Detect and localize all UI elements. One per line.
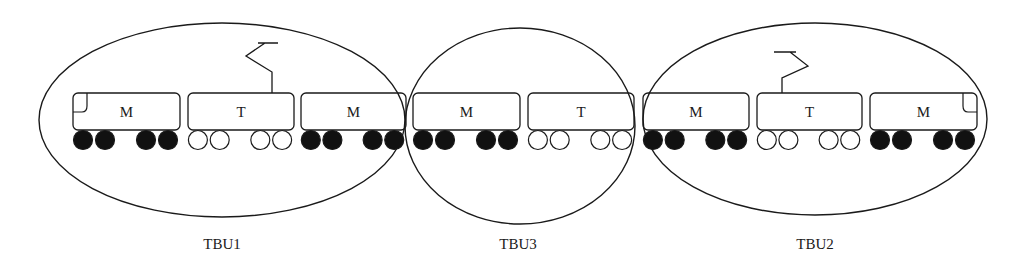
- powered-wheel-icon: [477, 131, 496, 150]
- powered-wheel-icon: [436, 131, 455, 150]
- powered-wheel-icon: [956, 131, 975, 150]
- powered-wheel-icon: [159, 131, 178, 150]
- car-motor: M: [301, 93, 406, 150]
- powered-wheel-icon: [871, 131, 890, 150]
- powered-wheel-icon: [934, 131, 953, 150]
- trailer-wheel-icon: [779, 131, 798, 150]
- traction-unit-groups: [39, 23, 987, 224]
- powered-wheel-icon: [414, 131, 433, 150]
- cab-icon: [73, 93, 87, 112]
- car-motor: M: [870, 93, 977, 150]
- trailer-wheel-icon: [819, 131, 838, 150]
- car-label: M: [917, 104, 930, 120]
- trailer-wheel-icon: [188, 131, 207, 150]
- powered-wheel-icon: [74, 131, 93, 150]
- powered-wheel-icon: [706, 131, 725, 150]
- powered-wheel-icon: [728, 131, 747, 150]
- trailer-wheel-icon: [591, 131, 610, 150]
- trailer-wheel-icon: [528, 131, 547, 150]
- powered-wheel-icon: [96, 131, 115, 150]
- pantograph-icon: [774, 52, 808, 93]
- car-label: M: [120, 104, 133, 120]
- car-label: T: [576, 104, 585, 120]
- car-label: M: [347, 104, 360, 120]
- powered-wheel-icon: [385, 131, 404, 150]
- group-label: TBU1: [203, 236, 241, 252]
- car-label: M: [689, 104, 702, 120]
- car-label: M: [460, 104, 473, 120]
- group-boundary-tbu1: [39, 23, 405, 217]
- car-trailer: T: [757, 52, 862, 150]
- powered-wheel-icon: [363, 131, 382, 150]
- trailer-wheel-icon: [210, 131, 229, 150]
- car-trailer: T: [528, 93, 634, 150]
- powered-wheel-icon: [665, 131, 684, 150]
- car-label: T: [236, 104, 245, 120]
- car-trailer: T: [188, 43, 294, 150]
- powered-wheel-icon: [893, 131, 912, 150]
- trailer-wheel-icon: [273, 131, 292, 150]
- trailer-wheel-icon: [251, 131, 270, 150]
- trailer-wheel-icon: [757, 131, 776, 150]
- group-label: TBU3: [499, 236, 537, 252]
- trailer-wheel-icon: [550, 131, 569, 150]
- car-motor: M: [643, 93, 749, 150]
- group-labels: TBU1TBU3TBU2: [203, 236, 834, 252]
- group-label: TBU2: [796, 236, 834, 252]
- powered-wheel-icon: [137, 131, 156, 150]
- train-cars: MTMMTMTM: [73, 43, 977, 150]
- powered-wheel-icon: [323, 131, 342, 150]
- powered-wheel-icon: [301, 131, 320, 150]
- car-motor: M: [413, 93, 520, 150]
- train-unit-diagram: MTMMTMTM TBU1TBU3TBU2: [0, 0, 1018, 267]
- cab-icon: [963, 93, 977, 112]
- car-label: T: [805, 104, 814, 120]
- powered-wheel-icon: [499, 131, 518, 150]
- pantograph-icon: [246, 43, 278, 93]
- car-motor: M: [73, 93, 180, 150]
- powered-wheel-icon: [643, 131, 662, 150]
- trailer-wheel-icon: [841, 131, 860, 150]
- trailer-wheel-icon: [613, 131, 632, 150]
